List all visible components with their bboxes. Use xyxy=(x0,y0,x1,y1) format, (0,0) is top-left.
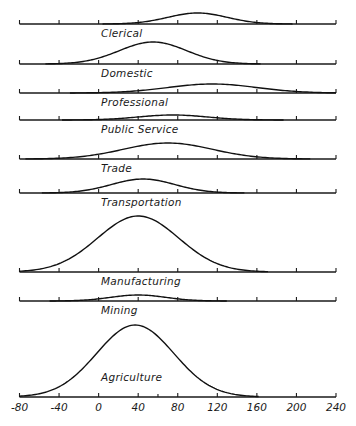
row-label-professional: Professional xyxy=(101,96,168,108)
x-tick-label: 120 xyxy=(207,401,227,413)
row-trade: Trade xyxy=(20,143,337,174)
x-tick-label: 200 xyxy=(286,401,306,413)
row-label-mining: Mining xyxy=(101,304,138,316)
row-professional: Professional xyxy=(20,84,337,108)
row-label-agriculture: Agriculture xyxy=(100,371,162,383)
distribution-chart: ClericalDomesticProfessionalPublic Servi… xyxy=(0,0,356,426)
distribution-curve-transportation xyxy=(42,179,245,193)
row-label-clerical: Clerical xyxy=(101,27,142,39)
row-label-trade: Trade xyxy=(101,162,132,174)
x-tick-label: 160 xyxy=(247,401,267,413)
row-agriculture: Agriculture xyxy=(20,325,337,397)
distribution-curve-agriculture xyxy=(20,325,259,397)
row-mining: Mining xyxy=(20,295,337,316)
distribution-curve-trade xyxy=(25,143,310,159)
x-tick-label: 80 xyxy=(171,401,185,413)
distribution-curve-domestic xyxy=(45,42,260,64)
row-domestic: Domestic xyxy=(20,42,337,79)
row-label-manufacturing: Manufacturing xyxy=(101,275,181,287)
row-label-public-service: Public Service xyxy=(101,123,179,135)
chart-rows: ClericalDomesticProfessionalPublic Servi… xyxy=(20,13,337,397)
row-public-service: Public Service xyxy=(20,115,337,135)
row-label-domestic: Domestic xyxy=(101,67,153,79)
distribution-curve-clerical xyxy=(103,13,293,24)
x-tick-label: -80 xyxy=(11,401,28,413)
row-manufacturing: Manufacturing xyxy=(20,216,337,287)
x-tick-label: 240 xyxy=(326,401,346,413)
distribution-curve-professional xyxy=(70,84,336,93)
row-label-transportation: Transportation xyxy=(101,196,182,208)
row-transportation: Transportation xyxy=(20,179,337,208)
distribution-curve-manufacturing xyxy=(20,216,268,272)
x-tick-label: 40 xyxy=(132,401,146,413)
x-tick-label: -40 xyxy=(50,401,67,413)
x-tick-label: 0 xyxy=(95,401,102,413)
distribution-curve-public-service xyxy=(62,115,284,120)
row-clerical: Clerical xyxy=(20,13,337,39)
x-axis-tick-labels: -80-4004080120160200240 xyxy=(11,401,346,413)
